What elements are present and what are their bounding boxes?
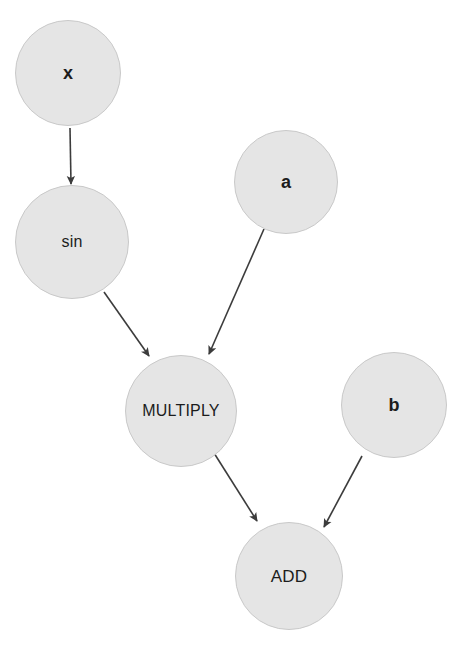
node-label-a: a xyxy=(281,173,291,191)
edge-sin-to-multiply xyxy=(104,292,149,356)
node-x[interactable]: x xyxy=(15,20,121,126)
node-label-multiply: MULTIPLY xyxy=(142,403,219,419)
node-sin[interactable]: sin xyxy=(15,185,129,299)
edge-a-to-multiply xyxy=(209,229,264,354)
graph-canvas: xsinaMULTIPLYbADD xyxy=(0,0,462,647)
node-a[interactable]: a xyxy=(234,130,338,234)
edge-multiply-to-add xyxy=(214,453,257,521)
node-label-b: b xyxy=(388,396,399,414)
node-label-sin: sin xyxy=(61,234,82,250)
node-label-x: x xyxy=(63,64,73,82)
node-label-add: ADD xyxy=(271,568,308,585)
edge-b-to-add xyxy=(324,456,362,527)
node-add[interactable]: ADD xyxy=(235,522,343,630)
edge-x-to-sin xyxy=(70,128,71,184)
node-multiply[interactable]: MULTIPLY xyxy=(125,355,237,467)
node-b[interactable]: b xyxy=(341,352,447,458)
